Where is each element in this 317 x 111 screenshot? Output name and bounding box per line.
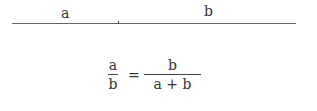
division-tick [118,21,119,24]
rhs-denominator: a + b [144,77,201,91]
rhs-fraction: b a + b [144,58,201,91]
rhs-numerator: b [144,58,201,72]
segment-label-b: b [204,4,213,18]
lhs-numerator: a [108,58,118,72]
fraction-bar [144,74,201,75]
lhs-denominator: b [108,77,118,91]
lhs-fraction: a b [108,58,118,91]
segment-line [12,23,296,24]
segment-label-a: a [61,6,69,20]
fraction-bar [108,74,118,75]
equals-sign: = [128,67,140,83]
